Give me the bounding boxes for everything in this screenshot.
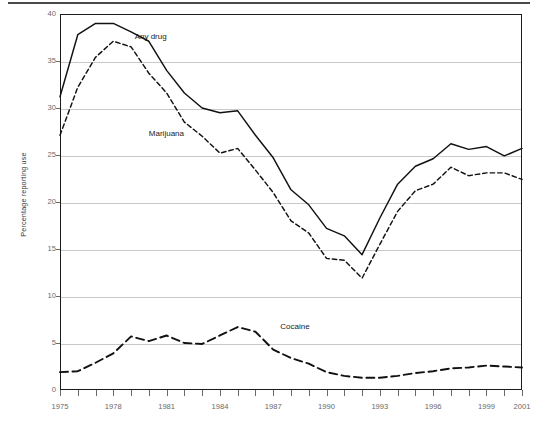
x-tick-mark-1998 xyxy=(469,390,470,396)
x-tick-label-1984: 1984 xyxy=(200,403,240,411)
y-tick-label-10: 10 xyxy=(34,292,56,300)
x-tick-mark-1992 xyxy=(362,390,363,396)
x-tick-mark-1989 xyxy=(309,390,310,396)
series-label-any-drug: Any drug xyxy=(135,33,167,41)
x-tick-mark-1988 xyxy=(291,390,292,396)
x-tick-mark-1985 xyxy=(238,390,239,396)
y-tick-label-30: 30 xyxy=(34,104,56,112)
line-series-marijuana xyxy=(60,41,522,278)
x-tick-label-1981: 1981 xyxy=(147,403,187,411)
x-tick-mark-1997 xyxy=(451,390,452,396)
y-tick-label-20: 20 xyxy=(34,198,56,206)
x-tick-mark-1995 xyxy=(415,390,416,396)
y-tick-label-15: 15 xyxy=(34,245,56,253)
x-tick-mark-1991 xyxy=(344,390,345,396)
y-tick-label-40: 40 xyxy=(34,10,56,18)
y-tick-label-25: 25 xyxy=(34,151,56,159)
x-tick-mark-2000 xyxy=(504,390,505,396)
x-tick-mark-1999 xyxy=(486,390,487,396)
x-tick-mark-1980 xyxy=(149,390,150,396)
x-tick-mark-1994 xyxy=(398,390,399,396)
x-tick-label-1975: 1975 xyxy=(40,403,80,411)
x-tick-mark-1984 xyxy=(220,390,221,396)
top-divider-rule xyxy=(8,2,530,4)
x-tick-label-2001: 2001 xyxy=(502,403,534,411)
x-tick-label-1987: 1987 xyxy=(253,403,293,411)
series-label-cocaine: Cocaine xyxy=(280,323,309,331)
x-tick-mark-1996 xyxy=(433,390,434,396)
x-tick-label-1999: 1999 xyxy=(466,403,506,411)
x-tick-mark-1987 xyxy=(273,390,274,396)
x-tick-mark-2001 xyxy=(522,390,523,396)
y-axis-title: Percentage reporting use xyxy=(19,125,28,265)
x-tick-mark-1981 xyxy=(167,390,168,396)
x-tick-label-1993: 1993 xyxy=(360,403,400,411)
series-label-marijuana: Marijuana xyxy=(149,130,184,138)
x-tick-label-1978: 1978 xyxy=(93,403,133,411)
x-tick-mark-1978 xyxy=(113,390,114,396)
x-tick-mark-1986 xyxy=(255,390,256,396)
x-tick-label-1996: 1996 xyxy=(413,403,453,411)
x-tick-label-1990: 1990 xyxy=(307,403,347,411)
x-tick-mark-1979 xyxy=(131,390,132,396)
x-tick-mark-1983 xyxy=(202,390,203,396)
line-series-cocaine xyxy=(60,327,522,378)
x-tick-mark-1990 xyxy=(327,390,328,396)
y-tick-label-0: 0 xyxy=(34,386,56,394)
figure-container: Percentage reporting use 051015202530354… xyxy=(0,0,534,427)
x-tick-mark-1975 xyxy=(60,390,61,396)
x-tick-mark-1976 xyxy=(78,390,79,396)
y-tick-label-35: 35 xyxy=(34,57,56,65)
y-tick-label-5: 5 xyxy=(34,339,56,347)
series-lines xyxy=(60,14,522,390)
x-tick-mark-1982 xyxy=(184,390,185,396)
x-tick-mark-1993 xyxy=(380,390,381,396)
x-tick-mark-1977 xyxy=(96,390,97,396)
